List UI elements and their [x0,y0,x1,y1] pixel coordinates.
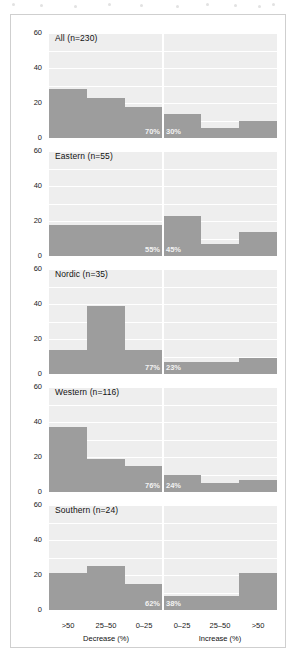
panel-eastern: 020406055%45%Eastern (n=55) [11,149,287,260]
bar [239,358,277,374]
plot-area: 55%45% [49,151,277,256]
panel-title: Nordic (n=35) [55,269,108,279]
panel-title: Southern (n=24) [55,505,118,515]
scan-speck [234,4,237,7]
panel-title: Eastern (n=55) [55,151,113,161]
y-axis-tick: 20 [11,452,42,461]
scan-speck [140,4,143,7]
y-axis-tick: 40 [11,535,42,544]
scan-speck [74,5,77,8]
plot-area: 70%30% [49,33,277,138]
bar [239,232,277,257]
y-axis-tick: 60 [11,28,42,37]
center-divider [162,33,164,138]
annotation-right-percent: 38% [166,599,181,608]
y-axis-tick: 40 [11,417,42,426]
center-divider [162,151,164,256]
y-axis-tick: 60 [11,382,42,391]
bar [87,459,125,492]
x-axis-tick: >50 [49,621,87,630]
y-axis-tick: 0 [11,251,42,260]
bar [239,480,277,492]
bar [49,350,87,375]
y-axis-tick: 20 [11,570,42,579]
panel-southern: 020406062%38%Southern (n=24) [11,503,287,614]
x-axis-tick: 0–25 [125,621,163,630]
center-divider [162,269,164,374]
bar [49,225,87,257]
y-axis-tick: 20 [11,334,42,343]
bar [87,98,125,138]
scan-speck [258,5,261,8]
panel-title: Western (n=116) [55,387,119,397]
figure-root: Rivers (%) 020406070%30%All (n=230)02040… [0,0,296,663]
bar [201,244,239,256]
x-axis-tick: 0–25 [163,621,201,630]
plot-area: 77%23% [49,269,277,374]
x-axis-tick: 25–50 [201,621,239,630]
bar [201,362,239,374]
y-axis-tick: 60 [11,264,42,273]
annotation-left-percent: 70% [145,127,160,136]
bar [49,573,87,610]
x-axis-tick: >50 [239,621,277,630]
annotation-right-percent: 23% [166,363,181,372]
scan-speck [176,5,179,8]
x-axis-group-label-increase: Increase (%) [163,634,277,643]
y-axis-tick: 0 [11,605,42,614]
plot-area: 76%24% [49,387,277,492]
y-axis-tick: 40 [11,181,42,190]
annotation-right-percent: 30% [166,127,181,136]
annotation-left-percent: 77% [145,363,160,372]
scan-speck [12,3,15,6]
bar [201,128,239,139]
y-axis-tick: 20 [11,98,42,107]
scan-speck [206,3,209,6]
scan-speck [40,4,43,7]
scan-speck [108,3,111,6]
x-axis-tick-row: >5025–500–250–2525–50>50 [49,621,277,633]
panel-title: All (n=230) [55,33,97,43]
annotation-left-percent: 55% [145,245,160,254]
bar [239,121,277,139]
bar [49,427,87,492]
y-axis-tick: 40 [11,299,42,308]
bar [201,483,239,492]
annotation-left-percent: 76% [145,481,160,490]
scan-artifacts [0,0,296,14]
annotation-right-percent: 45% [166,245,181,254]
x-axis-group-label-decrease: Decrease (%) [49,634,163,643]
bar [87,306,125,374]
annotation-right-percent: 24% [166,481,181,490]
bar [201,596,239,610]
scan-speck [272,3,275,6]
y-axis-tick: 0 [11,487,42,496]
figure-frame: Rivers (%) 020406070%30%All (n=230)02040… [10,14,286,648]
panel-western: 020406076%24%Western (n=116) [11,385,287,496]
x-axis-tick: 25–50 [87,621,125,630]
panel-all: 020406070%30%All (n=230) [11,31,287,142]
y-axis-tick: 0 [11,133,42,142]
annotation-left-percent: 62% [145,599,160,608]
center-divider [162,505,164,610]
panel-nordic: 020406077%23%Nordic (n=35) [11,267,287,378]
bar [239,573,277,610]
y-axis-tick: 0 [11,369,42,378]
y-axis-tick: 20 [11,216,42,225]
bar [49,89,87,138]
plot-area: 62%38% [49,505,277,610]
y-axis-tick: 60 [11,500,42,509]
bar [87,566,125,610]
y-axis-tick: 40 [11,63,42,72]
y-axis-tick: 60 [11,146,42,155]
bar [87,225,125,257]
center-divider [162,387,164,492]
